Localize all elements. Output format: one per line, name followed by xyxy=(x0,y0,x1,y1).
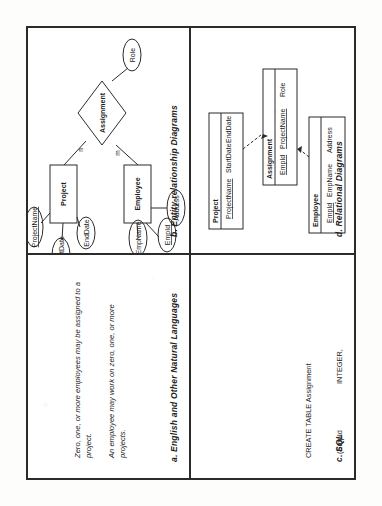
panel-d-caption: d. Relational Diagrams xyxy=(334,141,344,237)
er-attr-empname-label: EmpName xyxy=(135,221,143,253)
panel-relational-diagram: Project ProjectName StartDate EndDate As… xyxy=(191,28,354,253)
er-attr-projectname-label: ProjectName xyxy=(31,207,39,248)
er-attr-enddate-label: EndDate xyxy=(83,219,90,246)
natural-language-text: Zero, one, or more employees may be assi… xyxy=(72,271,140,458)
rel-col-assignment-role: Role xyxy=(279,82,286,97)
er-diagram: Employee Project Assignment EmpId EmpNam… xyxy=(28,28,189,253)
rel-col-employee-address: Address xyxy=(326,127,333,153)
sql-line: (EmpIdINTEGER, xyxy=(335,256,345,458)
rel-table-employee-name: Employee xyxy=(312,194,320,227)
panel-a-caption: a. English and Other Natural Languages xyxy=(169,293,179,462)
er-entity-project-label: Project xyxy=(60,181,68,205)
rel-col-assignment-projectname: ProjectName xyxy=(279,108,287,149)
rel-table-project-name: Project xyxy=(212,199,220,223)
er-attr-startdate-label: StartDate xyxy=(58,236,65,253)
rel-link-project-assignment xyxy=(243,135,261,149)
panel-sql: CREATE TABLE Assignment (EmpIdINTEGER, P… xyxy=(191,253,354,478)
panel-c-caption: c. SQL xyxy=(334,434,344,462)
er-cardinality-m: m xyxy=(114,150,121,155)
er-diagram-svg: Employee Project Assignment EmpId EmpNam… xyxy=(28,28,191,253)
figure-frame: Zero, one, or more employees may be assi… xyxy=(26,26,356,480)
rel-col-employee-empname: EmpName xyxy=(326,164,334,197)
er-attr-role-label: Role xyxy=(129,48,136,63)
er-entity-employee-label: Employee xyxy=(134,177,142,210)
panel-b-caption: b. Entity-relationship Diagrams xyxy=(169,105,179,237)
sql-col2: INTEGER, xyxy=(335,349,344,384)
rel-col-assignment-empid: EmpId xyxy=(279,155,287,175)
er-cardinality-n: n xyxy=(77,148,84,152)
sql-code-block: CREATE TABLE Assignment (EmpIdINTEGER, P… xyxy=(283,256,354,458)
er-relationship-label: Assignment xyxy=(99,92,107,133)
rel-arrowhead-employee-assignment xyxy=(297,146,302,153)
er-line-employee-empid xyxy=(146,223,159,237)
nl-paragraph-1: Zero, one, or more employees may be assi… xyxy=(72,280,94,458)
panel-natural-language: Zero, one, or more employees may be assi… xyxy=(28,253,191,478)
scanned-page: Zero, one, or more employees may be assi… xyxy=(0,0,382,506)
rel-col-project-startdate: StartDate xyxy=(225,143,232,173)
sql-line: CREATE TABLE Assignment xyxy=(304,256,314,458)
sql-col1: CREATE TABLE Assignment xyxy=(304,384,314,458)
er-line-assignment-role xyxy=(112,68,128,81)
panel-er-diagram: Employee Project Assignment EmpId EmpNam… xyxy=(28,28,191,253)
rel-col-project-projectname: ProjectName xyxy=(225,178,233,219)
nl-paragraph-2: An employee may work on zero, one, or mo… xyxy=(106,280,128,458)
rel-col-project-enddate: EndDate xyxy=(225,116,232,143)
figure-rotator: Zero, one, or more employees may be assi… xyxy=(0,0,382,506)
relational-diagram-svg: Project ProjectName StartDate EndDate As… xyxy=(191,28,354,253)
rel-table-assignment-name: Assignment xyxy=(266,138,274,179)
relational-diagram: Project ProjectName StartDate EndDate As… xyxy=(191,28,354,253)
rel-col-employee-empid: EmpId xyxy=(326,203,334,223)
er-line-project-assignment xyxy=(64,141,86,165)
figure-grid: Zero, one, or more employees may be assi… xyxy=(28,28,354,478)
